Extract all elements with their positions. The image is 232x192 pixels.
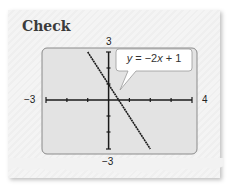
x-min-label: −3 — [24, 94, 35, 105]
y-min-label: −3 — [102, 156, 113, 167]
equation-label: y = −2x + 1 — [118, 52, 190, 64]
x-max-label: 4 — [202, 94, 208, 105]
y-max-label: 3 — [106, 36, 112, 47]
